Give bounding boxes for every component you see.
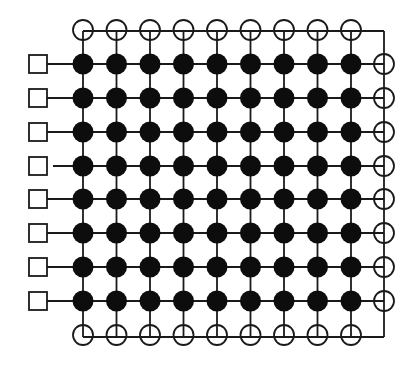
filled-node-r1-c8: [307, 54, 328, 75]
filled-node-r3-c8: [307, 122, 328, 143]
filled-node-r7-c3: [140, 257, 161, 278]
filled-node-r4-c4: [173, 156, 194, 177]
square-node-row-6: [29, 224, 47, 242]
filled-node-r2-c4: [173, 88, 194, 109]
diagram-canvas: [0, 0, 415, 367]
filled-node-r4-c5: [207, 156, 228, 177]
filled-node-r1-c3: [140, 54, 161, 75]
square-node-row-2: [29, 89, 47, 107]
filled-node-r4-c6: [240, 156, 261, 177]
filled-node-r7-c4: [173, 257, 194, 278]
filled-node-r2-c7: [274, 88, 295, 109]
filled-node-r6-c4: [173, 223, 194, 244]
filled-node-r2-c8: [307, 88, 328, 109]
filled-node-r5-c4: [173, 189, 194, 210]
filled-node-r5-c6: [240, 189, 261, 210]
filled-node-r6-c5: [207, 223, 228, 244]
square-node-row-1: [29, 55, 47, 73]
filled-node-r3-c1: [73, 122, 94, 143]
filled-node-r3-c3: [140, 122, 161, 143]
filled-node-r5-c3: [140, 189, 161, 210]
filled-node-r4-c9: [341, 156, 362, 177]
square-node-row-8: [29, 292, 47, 310]
filled-node-r2-c6: [240, 88, 261, 109]
filled-node-r6-c2: [106, 223, 127, 244]
filled-node-r3-c6: [240, 122, 261, 143]
filled-node-r3-c2: [106, 122, 127, 143]
filled-node-r3-c5: [207, 122, 228, 143]
filled-node-r3-c9: [341, 122, 362, 143]
filled-node-r5-c7: [274, 189, 295, 210]
filled-node-r1-c6: [240, 54, 261, 75]
filled-node-r8-c7: [274, 291, 295, 312]
filled-node-r2-c9: [341, 88, 362, 109]
filled-node-r2-c5: [207, 88, 228, 109]
filled-node-r4-c2: [106, 156, 127, 177]
filled-node-r8-c1: [73, 291, 94, 312]
filled-node-r1-c5: [207, 54, 228, 75]
filled-node-r5-c2: [106, 189, 127, 210]
filled-node-r8-c3: [140, 291, 161, 312]
filled-node-r4-c7: [274, 156, 295, 177]
filled-node-r8-c4: [173, 291, 194, 312]
filled-node-r7-c2: [106, 257, 127, 278]
square-node-row-5: [29, 190, 47, 208]
filled-node-r7-c7: [274, 257, 295, 278]
filled-node-r8-c8: [307, 291, 328, 312]
filled-node-r7-c8: [307, 257, 328, 278]
filled-node-r1-c9: [341, 54, 362, 75]
filled-node-r1-c2: [106, 54, 127, 75]
filled-node-r5-c8: [307, 189, 328, 210]
grid-network-diagram: [0, 0, 415, 367]
filled-node-r3-c4: [173, 122, 194, 143]
square-node-row-4: [29, 157, 47, 175]
filled-node-r2-c2: [106, 88, 127, 109]
filled-node-r6-c9: [341, 223, 362, 244]
filled-node-r1-c1: [73, 54, 94, 75]
filled-node-r8-c5: [207, 291, 228, 312]
filled-node-r8-c6: [240, 291, 261, 312]
filled-node-r4-c3: [140, 156, 161, 177]
filled-node-r5-c9: [341, 189, 362, 210]
filled-node-r8-c2: [106, 291, 127, 312]
filled-node-r5-c5: [207, 189, 228, 210]
filled-node-r7-c1: [73, 257, 94, 278]
filled-node-r2-c1: [73, 88, 94, 109]
filled-node-r6-c6: [240, 223, 261, 244]
filled-node-r7-c9: [341, 257, 362, 278]
filled-node-r6-c8: [307, 223, 328, 244]
filled-node-r7-c6: [240, 257, 261, 278]
filled-node-r7-c5: [207, 257, 228, 278]
filled-node-r1-c4: [173, 54, 194, 75]
filled-node-r6-c1: [73, 223, 94, 244]
filled-node-r2-c3: [140, 88, 161, 109]
filled-node-r3-c7: [274, 122, 295, 143]
square-node-row-3: [29, 123, 47, 141]
filled-node-r8-c9: [341, 291, 362, 312]
square-node-row-7: [29, 258, 47, 276]
filled-node-r5-c1: [73, 189, 94, 210]
filled-node-r4-c1: [73, 156, 94, 177]
filled-node-r6-c3: [140, 223, 161, 244]
filled-node-r1-c7: [274, 54, 295, 75]
filled-node-r6-c7: [274, 223, 295, 244]
filled-node-r4-c8: [307, 156, 328, 177]
